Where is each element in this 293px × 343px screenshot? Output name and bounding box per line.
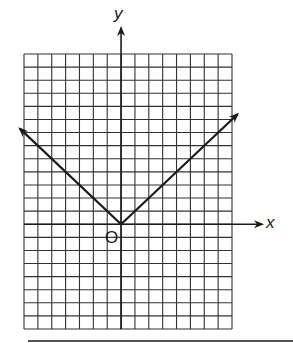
- grid-lines: [24, 54, 232, 329]
- right-ray: [121, 114, 237, 224]
- graph-figure: y x O: [0, 0, 293, 343]
- left-ray: [20, 129, 121, 225]
- bottom-divider: [28, 340, 293, 342]
- origin-label: O: [105, 228, 118, 248]
- y-axis-label: y: [114, 4, 123, 24]
- coordinate-plane: [0, 0, 293, 343]
- axes: [24, 28, 262, 329]
- x-axis-label: x: [266, 213, 275, 233]
- graph-line: [20, 114, 238, 224]
